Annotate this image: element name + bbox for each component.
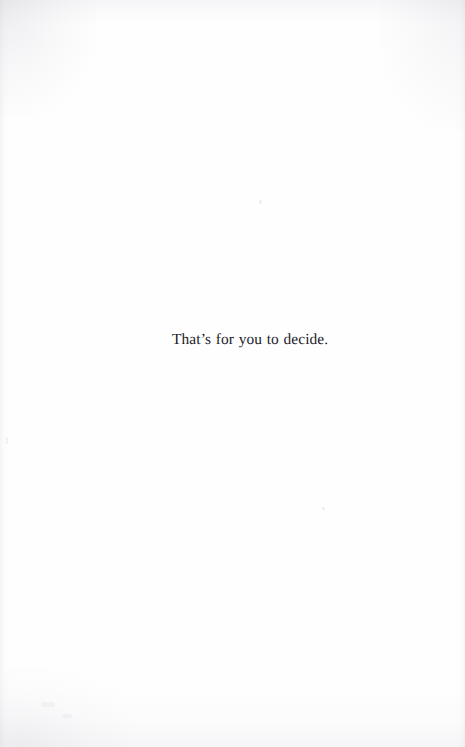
scan-shading-left-edge: [0, 0, 9, 747]
scan-speck: [259, 200, 262, 204]
scan-speck: [41, 702, 55, 707]
scan-shading-top-right: [379, 0, 465, 130]
scan-shading-top-band: [0, 0, 465, 26]
scan-shading-right-edge: [457, 0, 465, 747]
scan-mottle-bottom-left: [0, 667, 130, 747]
book-page: That’s for you to decide.: [0, 0, 465, 747]
scan-shading-top-left: [0, 0, 96, 118]
page-text-block: That’s for you to decide.: [0, 0, 465, 747]
scan-speck: [62, 714, 72, 718]
body-line: That’s for you to decide.: [172, 331, 328, 349]
scan-shading-bottom-edge: [0, 687, 465, 747]
scan-speck: [322, 507, 325, 510]
scan-speck: [6, 437, 8, 444]
